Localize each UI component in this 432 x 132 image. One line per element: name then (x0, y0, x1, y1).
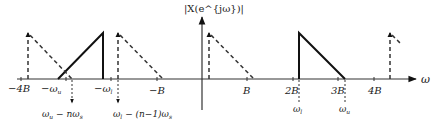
spectrum-diagram: |X(e^{jω})| ω −4B −ωu −ωl −B B 2B 3B 4B … (0, 0, 432, 132)
peak-arrow-4 (388, 32, 393, 37)
x-axis-label: ω (421, 73, 430, 86)
alias-label-2: ωl − (n−1)ωs (113, 109, 172, 120)
tick-label-minus-4B: −4B (8, 83, 30, 94)
label-wl: ωl (293, 104, 302, 115)
replica-peaks (26, 32, 393, 37)
tick-label-minus-wu: −ωu (41, 83, 62, 95)
tick-label-2B: 2B (284, 85, 299, 96)
replica-3 (209, 33, 254, 79)
replica-1 (28, 33, 72, 79)
aliased-replicas (28, 33, 400, 79)
tick-label-minus-wl: −ωl (94, 83, 113, 95)
peak-arrow-1 (26, 32, 31, 37)
replica-4 (390, 33, 400, 79)
y-axis-label: |X(e^{jω})| (184, 3, 244, 15)
peak-arrow-2 (116, 32, 121, 37)
alias-indicators (72, 80, 345, 104)
replica-2 (118, 33, 163, 79)
tick-label-3B: 3B (331, 85, 345, 96)
alias-label-1: ωu − nωs (42, 109, 83, 120)
tick-label-4B: 4B (367, 85, 382, 96)
label-wu: ωu (339, 104, 350, 115)
spectrum-positive-band (299, 33, 345, 79)
tick-label-B: B (242, 85, 250, 96)
peak-arrow-3 (207, 32, 212, 37)
tick-label-minus-B: −B (149, 85, 165, 96)
